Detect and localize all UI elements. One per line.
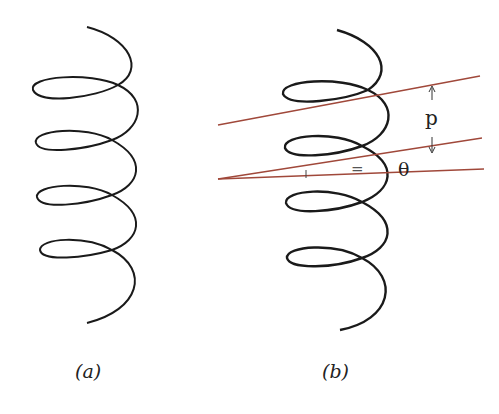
helix-diagram: [0, 0, 499, 414]
angle-label: θ: [398, 158, 409, 180]
caption-b: (b): [322, 360, 349, 382]
caption-b-text: (b): [322, 360, 349, 382]
pitch-line-lower: [218, 138, 482, 179]
caption-a-text: (a): [75, 360, 101, 382]
equal-mark: =: [351, 160, 364, 178]
caption-a: (a): [75, 360, 101, 382]
helix-a: [33, 27, 138, 323]
pitch-label: p: [425, 106, 438, 130]
helix-b: [283, 30, 389, 330]
